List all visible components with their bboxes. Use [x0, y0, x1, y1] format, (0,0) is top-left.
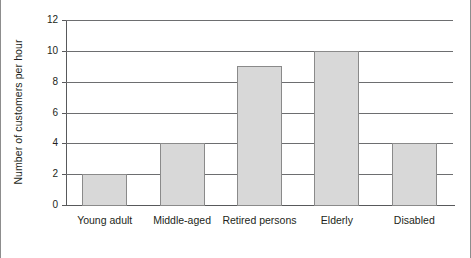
- y-axis-tick-mark: [62, 174, 66, 175]
- y-axis-tick-label: 0: [32, 200, 58, 210]
- bar: [314, 51, 359, 206]
- y-axis-tick-mark: [62, 51, 66, 52]
- x-axis-category-label: Elderly: [298, 214, 375, 226]
- y-axis-tick-mark: [62, 205, 66, 206]
- y-axis-title: Number of customers per hour: [9, 14, 27, 210]
- x-axis-category-label: Disabled: [376, 214, 453, 226]
- bar: [160, 143, 205, 206]
- x-axis-category-label: Middle-aged: [143, 214, 220, 226]
- y-axis-tick-label: 8: [32, 77, 58, 87]
- y-axis-tick-label: 12: [32, 15, 58, 25]
- y-axis-tick-mark: [62, 113, 66, 114]
- y-axis-tick-mark: [62, 20, 66, 21]
- y-axis-tick-label: 6: [32, 108, 58, 118]
- y-axis-tick-label: 4: [32, 138, 58, 148]
- y-axis-tick-mark: [62, 82, 66, 83]
- x-axis-category-label: Young adult: [66, 214, 143, 226]
- bar: [82, 174, 127, 206]
- bar-chart-figure: Number of customers per hour 024681012 Y…: [0, 0, 471, 258]
- bar: [392, 143, 437, 206]
- gridline: [66, 20, 453, 21]
- x-axis-category-label: Retired persons: [221, 214, 298, 226]
- y-axis-tick-mark: [62, 143, 66, 144]
- bar: [237, 66, 282, 206]
- gridline: [66, 51, 453, 52]
- y-axis-tick-label: 10: [32, 46, 58, 56]
- y-axis-tick-label: 2: [32, 169, 58, 179]
- y-axis-title-text: Number of customers per hour: [12, 39, 24, 184]
